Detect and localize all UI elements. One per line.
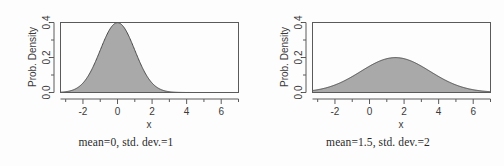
normal-distribution-figure: -20246 0.00.20.4 x Prob. Density mean=0,… — [0, 0, 504, 166]
y-tick-label: 0.0 — [41, 85, 52, 99]
x-axis-right: -20246 — [313, 99, 491, 117]
x-tick-label: 6 — [470, 106, 476, 117]
panel-left: -20246 0.00.20.4 x Prob. Density mean=0,… — [0, 0, 252, 166]
y-tick-label: 0.4 — [41, 15, 52, 29]
x-tick-label: 2 — [401, 106, 407, 117]
panel-right: -20246 0.00.20.4 x Prob. Density mean=1.… — [252, 0, 504, 166]
y-tick-label: 0.4 — [293, 15, 304, 29]
x-tick-label: -2 — [79, 106, 88, 117]
x-tick-label: 0 — [367, 106, 373, 117]
x-axis-title: x — [399, 119, 404, 130]
plot-area-right — [313, 23, 491, 93]
y-tick-label: 0.0 — [293, 85, 304, 99]
x-tick-label: 6 — [218, 106, 224, 117]
panel-caption-right: mean=1.5, std. dev.=2 — [252, 136, 504, 148]
x-tick-label: -2 — [331, 106, 340, 117]
x-axis-title: x — [147, 119, 152, 130]
y-tick-label: 0.2 — [41, 50, 52, 64]
x-tick-label: 4 — [184, 106, 190, 117]
y-axis-right: 0.00.20.4 — [293, 15, 307, 99]
y-axis-left: 0.00.20.4 — [41, 15, 55, 99]
plot-area-left — [61, 23, 239, 93]
plot-left: -20246 0.00.20.4 x Prob. Density — [0, 0, 252, 136]
x-tick-label: 0 — [115, 106, 121, 117]
y-axis-title: Prob. Density — [279, 27, 290, 87]
panel-caption-left: mean=0, std. dev.=1 — [0, 136, 252, 148]
x-axis-left: -20246 — [61, 99, 239, 117]
plot-right: -20246 0.00.20.4 x Prob. Density — [252, 0, 504, 136]
x-tick-label: 2 — [149, 106, 155, 117]
y-tick-label: 0.2 — [293, 50, 304, 64]
y-axis-title: Prob. Density — [27, 27, 38, 87]
x-tick-label: 4 — [436, 106, 442, 117]
